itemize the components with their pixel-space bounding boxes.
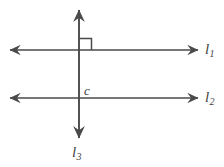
label-line-l2-subscript: 2 <box>209 96 214 107</box>
label-point-c: c <box>84 82 90 98</box>
label-line-l1: l1 <box>205 41 215 59</box>
label-line-l3: l3 <box>72 144 82 162</box>
diagram-canvas <box>0 0 224 167</box>
label-line-l1-subscript: 1 <box>209 48 214 59</box>
label-line-l2: l2 <box>205 89 215 107</box>
label-point-c-base: c <box>84 83 90 98</box>
geometry-figure: l1 l2 l3 c <box>0 0 224 167</box>
label-line-l3-subscript: 3 <box>76 151 81 162</box>
right-angle-marker <box>79 39 92 51</box>
